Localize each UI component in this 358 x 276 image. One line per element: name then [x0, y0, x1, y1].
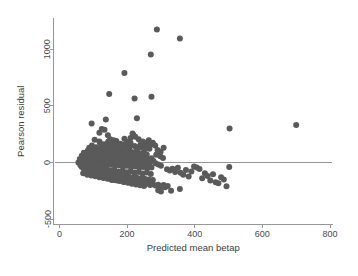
data-point	[146, 137, 152, 143]
data-point	[132, 96, 138, 102]
y-tick-label: 0	[43, 160, 53, 165]
data-point	[207, 178, 213, 184]
data-point	[142, 146, 148, 152]
x-tick-label: 0	[57, 229, 62, 239]
data-point	[177, 36, 183, 42]
data-point	[89, 120, 95, 126]
data-point	[138, 141, 144, 147]
data-point	[226, 164, 232, 170]
data-point	[101, 127, 107, 133]
data-point	[89, 142, 95, 148]
data-point	[160, 155, 166, 161]
data-point	[183, 167, 189, 173]
data-point-group	[75, 26, 299, 194]
data-point	[148, 51, 154, 57]
x-axis-title: Predicted mean betap	[147, 242, 240, 253]
x-tick-label: 200	[120, 229, 135, 239]
plot-canvas: -500050010000200400600800Predicted mean …	[0, 0, 358, 276]
data-point	[111, 152, 117, 158]
data-point	[121, 70, 127, 76]
y-tick-label: 500	[43, 98, 53, 113]
data-point	[96, 130, 102, 136]
data-point	[121, 136, 127, 142]
data-point	[210, 171, 216, 177]
data-point	[161, 145, 167, 151]
data-point	[139, 158, 145, 164]
y-tick-label: 1000	[43, 39, 53, 59]
data-point	[224, 183, 230, 189]
data-point	[188, 168, 194, 174]
y-tick-label: -500	[43, 210, 53, 228]
data-point	[148, 171, 154, 177]
data-point	[227, 125, 233, 131]
data-point	[196, 166, 202, 172]
data-point	[221, 176, 227, 182]
x-tick-label: 800	[322, 229, 337, 239]
data-point	[132, 143, 138, 149]
data-point	[199, 175, 205, 181]
data-point	[168, 188, 174, 194]
data-point	[136, 136, 142, 142]
data-point	[106, 91, 112, 97]
data-point	[154, 26, 160, 32]
data-point	[77, 162, 83, 168]
data-point	[153, 152, 159, 158]
data-point	[143, 179, 149, 185]
data-point	[215, 180, 221, 186]
x-tick-label: 600	[255, 229, 270, 239]
scatter-plot-figure: -500050010000200400600800Predicted mean …	[0, 0, 358, 276]
data-point	[177, 186, 183, 192]
data-point	[186, 174, 192, 180]
data-point	[148, 94, 154, 100]
y-axis-title: Pearson residual	[15, 86, 26, 157]
x-tick-label: 400	[187, 229, 202, 239]
data-point	[158, 163, 164, 169]
data-point	[105, 158, 111, 164]
data-point	[293, 122, 299, 128]
data-point	[134, 115, 140, 121]
data-point	[103, 116, 109, 122]
